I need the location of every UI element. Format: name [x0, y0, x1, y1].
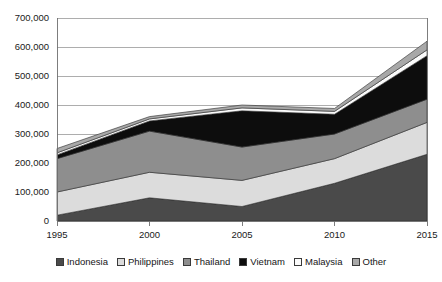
x-axis-tick-label: 2015 [416, 229, 437, 240]
chart-canvas: 0100,000200,000300,000400,000500,000600,… [0, 0, 442, 245]
legend-label: Indonesia [67, 257, 108, 267]
legend-item-philippines[interactable]: Philippines [117, 257, 174, 267]
legend-label: Other [363, 257, 387, 267]
y-axis-tick-label: 100,000 [15, 186, 49, 197]
legend-swatch-icon [56, 258, 64, 266]
legend-label: Thailand [194, 257, 230, 267]
stacked-area-chart: 0100,000200,000300,000400,000500,000600,… [0, 0, 442, 282]
y-axis-tick-label: 0 [44, 215, 49, 226]
legend-label: Vietnam [250, 257, 285, 267]
y-axis-tick-label: 300,000 [15, 128, 49, 139]
y-axis-tick-label: 600,000 [15, 41, 49, 52]
y-axis-labels: 0100,000200,000300,000400,000500,000600,… [15, 12, 49, 226]
x-axis-tick-label: 2000 [139, 229, 160, 240]
legend-swatch-icon [183, 258, 191, 266]
y-axis-tick-label: 700,000 [15, 12, 49, 23]
legend-swatch-icon [352, 258, 360, 266]
x-axis-labels: 19952000200520102015 [46, 229, 437, 240]
y-axis-tick-label: 500,000 [15, 70, 49, 81]
legend-item-indonesia[interactable]: Indonesia [56, 257, 108, 267]
x-axis-tick-label: 1995 [46, 229, 67, 240]
legend-swatch-icon [239, 258, 247, 266]
y-axis-tick-label: 200,000 [15, 157, 49, 168]
legend-swatch-icon [294, 258, 302, 266]
legend-swatch-icon [117, 258, 125, 266]
y-axis-tick-label: 400,000 [15, 99, 49, 110]
x-axis-tick-label: 2005 [231, 229, 252, 240]
legend-item-malaysia[interactable]: Malaysia [294, 257, 343, 267]
legend-label: Malaysia [305, 257, 343, 267]
legend-item-vietnam[interactable]: Vietnam [239, 257, 285, 267]
legend-label: Philippines [128, 257, 174, 267]
chart-legend: IndonesiaPhilippinesThailandVietnamMalay… [0, 252, 442, 272]
plot-area: 0100,000200,000300,000400,000500,000600,… [0, 0, 442, 245]
legend-item-other[interactable]: Other [352, 257, 387, 267]
x-axis-tick-label: 2010 [324, 229, 345, 240]
legend-item-thailand[interactable]: Thailand [183, 257, 230, 267]
areas [57, 41, 427, 221]
